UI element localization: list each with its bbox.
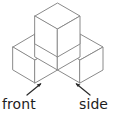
leader-front (27, 83, 42, 95)
leader-side (76, 83, 91, 95)
label-side: side (79, 97, 108, 111)
isometric-cube-figure: front side (0, 0, 117, 117)
label-front: front (2, 97, 36, 111)
